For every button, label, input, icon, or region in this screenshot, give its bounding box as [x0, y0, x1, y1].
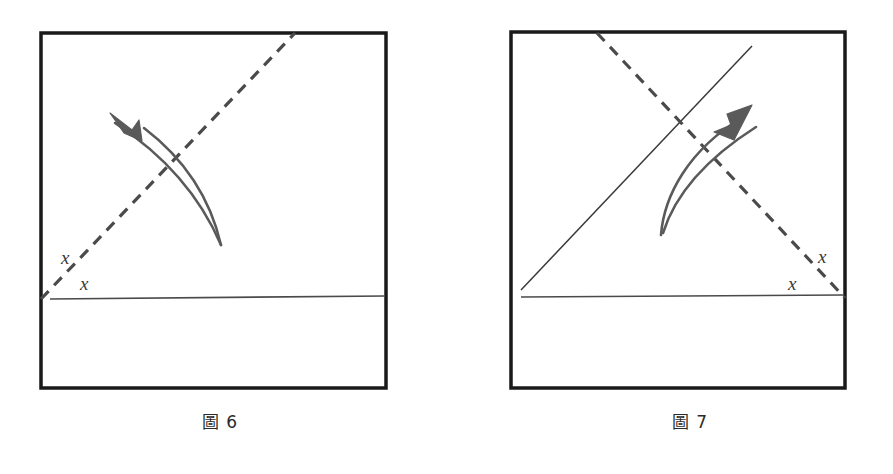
figure-7-solid-diagonal: [521, 46, 752, 290]
figure-6-caption: 圖 6: [10, 408, 430, 433]
figure-7-frame: [511, 32, 845, 388]
figure-6-horizontal-line: [50, 296, 385, 299]
figure-6-arrowhead-icon: [110, 113, 142, 141]
figure-page: x x 圖 6 x x 圖 7: [0, 0, 893, 474]
figure-7-drawing: x x: [480, 0, 893, 400]
figure-6-arrow-outer-curve: [115, 123, 221, 245]
figure-6-arrow-inner-curve: [144, 128, 221, 245]
figure-7-horizontal-line: [521, 295, 843, 297]
figure-7-dashed-diagonal: [597, 33, 845, 298]
figure-7-label-x-upper: x: [817, 246, 827, 267]
figure-7: x x 圖 7: [480, 0, 893, 474]
figure-6-drawing: x x: [10, 0, 430, 400]
figure-6-label-x-upper: x: [60, 247, 70, 268]
figure-7-caption: 圖 7: [480, 408, 893, 433]
figure-6: x x 圖 6: [10, 0, 430, 474]
figure-6-label-x-lower: x: [79, 273, 89, 294]
figure-7-label-x-lower: x: [787, 273, 797, 294]
figure-6-frame: [41, 33, 386, 388]
